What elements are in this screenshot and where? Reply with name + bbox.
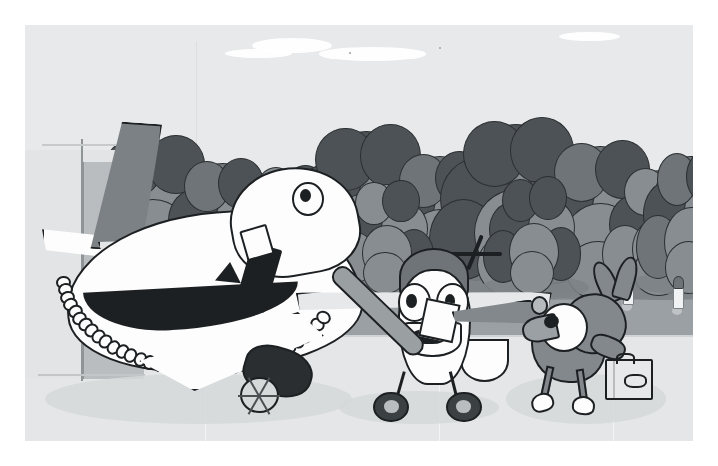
sky-speck-2 [439,47,441,49]
cloud-far-right [559,32,619,41]
small-plane [346,241,520,416]
cloud-wisp [319,47,426,60]
tree-11-foliage-8 [529,176,566,220]
kangaroo-left-foot [529,390,556,415]
airliner-eye-pupil [300,189,311,202]
airliner-nose-triangle [215,261,243,284]
bollard-5-cap [673,276,684,289]
suitcase-handle [616,353,635,364]
suitcase-latch-strip [613,361,615,398]
baseball-bat [335,259,450,381]
suitcase-label-oval [624,374,647,388]
small-plane-left-wheel [373,392,408,422]
small-plane-right-wheel [446,392,481,422]
scene-frame [25,25,693,441]
kangaroo-right-foot [571,395,596,416]
bollard-5 [673,285,684,309]
airliner [35,162,382,412]
kangaroo [519,250,666,416]
airliner-engine-fan [240,377,279,413]
suitcase [605,359,653,400]
kangaroo-right-ear [611,254,642,302]
sky-speck-1 [349,52,351,54]
tree-10-foliage-8 [382,180,419,222]
illustration-page [0,0,718,466]
